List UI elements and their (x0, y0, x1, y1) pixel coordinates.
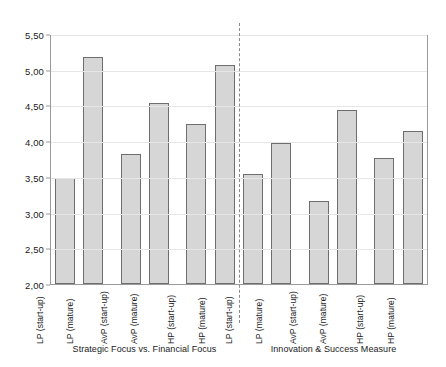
panel-strategic-focus (51, 36, 239, 284)
bar-slot (333, 36, 361, 284)
bar (403, 131, 423, 284)
bar-slot (51, 36, 79, 284)
bar (121, 154, 141, 284)
bar-slot (79, 36, 107, 284)
bar-slot (267, 36, 295, 284)
x-axis-tick-label: AvP (mature) (318, 294, 328, 344)
bar (186, 124, 206, 284)
bar-slot (399, 36, 427, 284)
panel-captions: Strategic Focus vs. Financial Focus Inno… (50, 344, 428, 360)
x-axis-tick-label: HP (mature) (196, 297, 206, 344)
bar (149, 103, 169, 284)
panel-innovation-success (239, 36, 427, 284)
bar (55, 178, 75, 284)
bar-slot (211, 36, 239, 284)
x-label-slot: HP (mature) (400, 286, 429, 344)
y-axis-tick-label: 4,50 (25, 101, 44, 112)
x-axis-tick-label: LP (start-up) (35, 296, 45, 344)
y-axis-tick-label: 4,00 (25, 137, 44, 148)
x-axis-tick-label: LP (mature) (65, 299, 75, 344)
bar (243, 174, 263, 284)
bar-chart-figure: 5,505,004,504,003,503,002,502,00 LP (sta… (0, 0, 446, 367)
y-axis-tick-label: 5,00 (25, 65, 44, 76)
bar (337, 110, 357, 284)
y-axis-tick-label: 5,50 (25, 30, 44, 41)
x-axis-tick-label: AvP (start-up) (99, 291, 109, 344)
x-axis-tick-label: AvP (mature) (129, 294, 139, 344)
x-axis-tick-labels: LP (start-up)LP (mature)AvP (start-up)Av… (50, 286, 428, 344)
bar-slot (305, 36, 333, 284)
y-axis-tick-label: 2,00 (25, 280, 44, 291)
bar (374, 158, 394, 284)
y-axis-tick-label: 3,50 (25, 172, 44, 183)
x-axis-tick-label: HP (start-up) (167, 295, 177, 344)
x-axis-tick-label: LP (mature) (254, 299, 264, 344)
x-axis-tick-label: AvP (start-up) (288, 291, 298, 344)
panel-caption-strategic-focus: Strategic Focus vs. Financial Focus (50, 344, 239, 354)
bar-slot (370, 36, 398, 284)
bar-slot (117, 36, 145, 284)
y-axis: 5,505,004,504,003,503,002,502,00 (0, 35, 50, 285)
y-axis-tick-label: 3,00 (25, 208, 44, 219)
panel-divider-dashed-line (239, 23, 240, 323)
bar-slot (239, 36, 267, 284)
x-axis-tick-label: HP (mature) (385, 297, 395, 344)
y-axis-tick-label: 2,50 (25, 244, 44, 255)
x-axis-tick-label: LP (start-up) (224, 296, 234, 344)
bar-slot (182, 36, 210, 284)
x-labels-panel-strategic-focus: LP (start-up)LP (mature)AvP (start-up)Av… (50, 286, 239, 344)
bar (215, 65, 235, 284)
panel-caption-innovation-success: Innovation & Success Measure (239, 344, 428, 354)
x-axis-tick-label: HP (start-up) (356, 295, 366, 344)
x-labels-panel-innovation-success: LP (start-up)LP (mature)AvP (start-up)Av… (239, 286, 428, 344)
bar-slot (145, 36, 173, 284)
